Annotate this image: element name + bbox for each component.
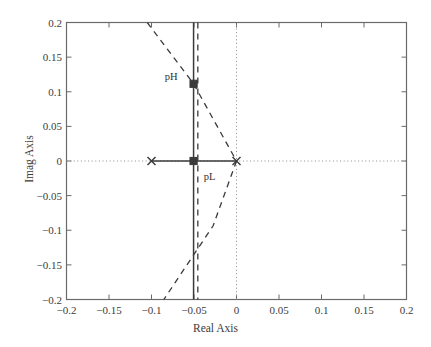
x-axis-label: Real Axis bbox=[0, 322, 431, 334]
x-tick-label: 0.15 bbox=[354, 304, 373, 316]
annotation-pl: pL bbox=[204, 171, 216, 182]
y-tick-label: 0.2 bbox=[26, 17, 62, 29]
y-tick-label: 0.1 bbox=[26, 86, 62, 98]
x-tick-label: 0.2 bbox=[400, 304, 414, 316]
x-tick-label: 0.1 bbox=[315, 304, 329, 316]
plot-canvas bbox=[0, 0, 431, 347]
y-tick-label: −0.2 bbox=[26, 294, 62, 306]
root-locus-figure: −0.2−0.15−0.1−0.0500.050.10.150.2 −0.2−0… bbox=[0, 0, 431, 347]
x-tick-label: 0 bbox=[234, 304, 240, 316]
annotation-ph: pH bbox=[165, 71, 178, 82]
y-tick-label: −0.1 bbox=[26, 224, 62, 236]
y-tick-label: 0.15 bbox=[26, 51, 62, 63]
y-tick-label: −0.15 bbox=[26, 259, 62, 271]
y-axis-label: Imag Axis bbox=[23, 104, 35, 214]
x-tick-label: −0.1 bbox=[142, 304, 162, 316]
x-tick-label: −0.15 bbox=[96, 304, 121, 316]
x-tick-label: −0.05 bbox=[181, 304, 206, 316]
x-tick-label: 0.05 bbox=[269, 304, 288, 316]
